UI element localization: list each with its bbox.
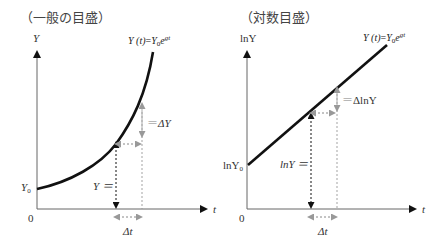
right-chart-title: （対数目盛） [240, 10, 318, 25]
left-formula: Y (t)=Y0egt [128, 34, 171, 48]
right-delta-lny-label: ＝ΔlnY [342, 94, 377, 106]
right-delta-t-label: Δt [317, 225, 328, 237]
left-level-label: Y ＝ [93, 180, 113, 192]
left-x-axis-label: t [213, 203, 217, 215]
growth-diagram: （一般の目盛） Y t 0 Y0 Y (t)=Y0egt Y ＝ ＝ΔY Δt … [0, 0, 444, 245]
right-y0-label: lnY0 [223, 159, 244, 173]
right-formula: Y (t)=Y0egt [363, 31, 406, 45]
left-y0-label: Y0 [21, 181, 31, 195]
left-exponential-curve [37, 52, 153, 189]
right-level-label: lnY ＝ [280, 158, 308, 170]
left-delta-y-label: ＝ΔY [147, 117, 172, 129]
left-y-axis-label: Y [33, 32, 41, 44]
right-origin-label: 0 [239, 212, 245, 224]
left-delta-t-label: Δt [122, 225, 133, 237]
left-chart-title: （一般の目盛） [20, 10, 111, 25]
right-chart: （対数目盛） lnY t 0 lnY0 Y (t)=Y0egt lnY ＝ ＝Δ… [223, 10, 426, 237]
right-x-axis-label: t [422, 203, 426, 215]
left-chart: （一般の目盛） Y t 0 Y0 Y (t)=Y0egt Y ＝ ＝ΔY Δt [20, 10, 217, 237]
right-y-axis-label: lnY [240, 32, 257, 44]
left-origin-label: 0 [28, 212, 34, 224]
